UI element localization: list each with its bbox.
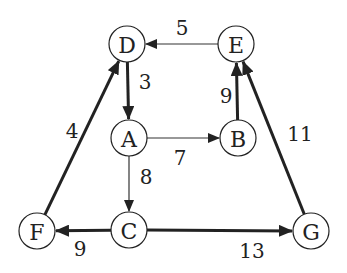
node-e: E <box>218 26 254 62</box>
edge-weight-label: 3 <box>139 70 152 94</box>
node-d: D <box>109 26 145 62</box>
edge-weight-label: 11 <box>287 122 312 146</box>
node-label: D <box>118 33 136 58</box>
node-label: E <box>228 33 244 58</box>
node-b: B <box>220 120 256 156</box>
node-label: G <box>302 220 320 245</box>
edge-f-to-d <box>45 61 119 215</box>
edge-weight-label: 8 <box>140 165 153 189</box>
graph-diagram: 53789411913 DEABFCG <box>0 0 347 273</box>
edge-d-to-a <box>127 62 128 119</box>
node-label: F <box>29 220 44 245</box>
edge-b-to-e <box>236 63 237 120</box>
node-c: C <box>111 212 147 248</box>
edge-c-to-f <box>56 230 111 231</box>
edge-weight-label: 9 <box>74 237 87 261</box>
edge-weight-label: 4 <box>66 119 79 143</box>
edge-weight-label: 9 <box>220 84 233 108</box>
node-label: A <box>120 127 138 152</box>
edge-weight-label: 5 <box>176 16 189 40</box>
edge-weight-label: 13 <box>239 239 264 263</box>
node-f: F <box>19 213 55 249</box>
edge-weight-label: 7 <box>174 146 187 170</box>
node-label: B <box>230 127 246 152</box>
node-a: A <box>111 120 147 156</box>
node-g: G <box>293 213 329 249</box>
edges-layer <box>45 44 304 231</box>
node-label: C <box>121 219 138 244</box>
edge-c-to-g <box>147 230 292 231</box>
